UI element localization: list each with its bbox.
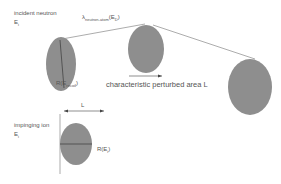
impinging-ion-label: impinging ion <box>14 122 49 129</box>
ion-energy-label: Ei <box>14 131 19 140</box>
ion-range-label: R(Ei) <box>97 146 110 155</box>
l-arrow-right-head-icon <box>100 110 104 113</box>
diagram-canvas: incident neutron Ei λneutron-atom(ED) R(… <box>0 0 281 184</box>
arrow-head-icon <box>158 75 162 78</box>
perturbed-area-label: characteristic perturbed area L <box>106 81 208 88</box>
lambda-label: λneutron-atom(ED) <box>82 14 120 23</box>
trajectory-line-2 <box>153 25 255 59</box>
middle-ellipse <box>128 25 164 73</box>
far-ellipse <box>228 59 272 115</box>
l-arrow-left-head-icon <box>64 110 68 113</box>
l-label: L <box>81 102 84 109</box>
diagram-graphics <box>0 0 281 184</box>
recoil-range-label: R(Erecoil) <box>56 80 78 89</box>
incident-neutron-label: incident neutron <box>14 10 57 17</box>
incident-energy-label: Ei <box>14 19 19 28</box>
